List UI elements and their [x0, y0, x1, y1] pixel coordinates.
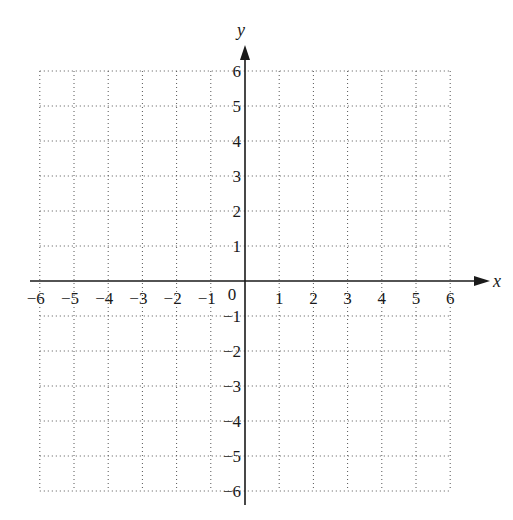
x-tick-label: 2 [309, 289, 318, 308]
y-tick-label: −2 [223, 342, 241, 361]
y-tick-label: −1 [223, 307, 241, 326]
y-tick-label: 3 [233, 167, 242, 186]
y-tick-label: −4 [223, 412, 242, 431]
x-axis-label: x [492, 271, 501, 291]
x-tick-labels: −6−5−4−3−2−1123456 [27, 289, 455, 308]
x-tick-label: −6 [27, 289, 45, 308]
x-tick-label: 4 [378, 289, 387, 308]
y-tick-label: 4 [233, 132, 242, 151]
x-tick-label: −3 [129, 289, 147, 308]
x-tick-label: −4 [95, 289, 114, 308]
x-tick-label: 3 [343, 289, 352, 308]
y-tick-label: 5 [233, 97, 242, 116]
y-tick-label: −3 [223, 377, 241, 396]
y-tick-label: −6 [223, 482, 241, 501]
x-tick-label: 5 [412, 289, 421, 308]
y-tick-label: −5 [223, 447, 241, 466]
y-tick-label: 2 [233, 202, 242, 221]
x-tick-label: −2 [164, 289, 182, 308]
x-tick-label: 1 [275, 289, 284, 308]
y-axis-label: y [235, 20, 245, 40]
y-axis-arrow-icon [240, 45, 250, 60]
origin-label: 0 [228, 285, 237, 304]
y-tick-label: 1 [233, 237, 242, 256]
x-tick-label: 6 [446, 289, 455, 308]
y-tick-label: 6 [233, 62, 242, 81]
x-axis-arrow-icon [474, 276, 490, 286]
x-tick-label: −5 [61, 289, 79, 308]
coordinate-plane: x y 0 −6−5−4−3−2−1123456 −6−5−4−3−2−1123… [0, 0, 513, 520]
x-tick-label: −1 [198, 289, 216, 308]
